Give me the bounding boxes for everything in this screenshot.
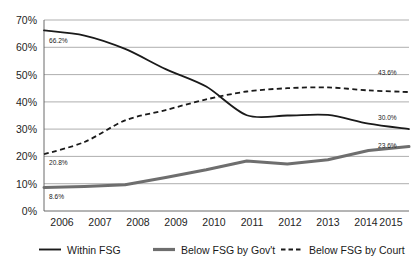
y-tick-label-10: 10%	[16, 178, 37, 190]
y-tick-label-30: 30%	[16, 123, 37, 135]
legend-label-within-fsg: Within FSG	[67, 244, 121, 256]
chart-canvas: 70% 60% 50% 40% 30% 20% 10% 0% 2006 2007…	[0, 0, 417, 267]
legend-label-below-fsg-by-court: Below FSG by Court	[309, 244, 405, 256]
x-tick-label-2014: 2014	[354, 216, 378, 228]
legend: Within FSG Below FSG by Gov't Below FSG …	[39, 244, 405, 256]
line-chart: 70% 60% 50% 40% 30% 20% 10% 0% 2006 2007…	[0, 0, 417, 267]
x-tick-label-2013: 2013	[316, 216, 340, 228]
x-tick-label-2008: 2008	[126, 216, 150, 228]
y-tick-label-40: 40%	[16, 96, 37, 108]
data-label-within-end: 30.0%	[378, 114, 397, 121]
x-tick-label-2007: 2007	[88, 216, 112, 228]
x-tick-label-2015: 2015	[379, 216, 403, 228]
data-label-gov-end: 23.6%	[378, 142, 397, 149]
y-tick-label-50: 50%	[16, 69, 37, 81]
data-label-gov-start: 8.6%	[49, 193, 64, 200]
data-label-court-end: 43.6%	[378, 69, 397, 76]
legend-label-below-fsg-by-gov: Below FSG by Gov't	[181, 244, 275, 256]
y-tick-label-70: 70%	[16, 14, 37, 26]
data-label-court-start: 20.8%	[49, 159, 68, 166]
x-tick-label-2009: 2009	[164, 216, 188, 228]
y-tick-label-20: 20%	[16, 150, 37, 162]
x-tick-label-2006: 2006	[50, 216, 74, 228]
x-tick-label-2011: 2011	[241, 216, 264, 228]
x-tick-label-2010: 2010	[202, 216, 226, 228]
y-tick-label-60: 60%	[16, 41, 37, 53]
data-label-within-start: 66.2%	[49, 37, 68, 44]
x-tick-label-2012: 2012	[278, 216, 302, 228]
y-tick-label-0: 0%	[22, 205, 37, 217]
